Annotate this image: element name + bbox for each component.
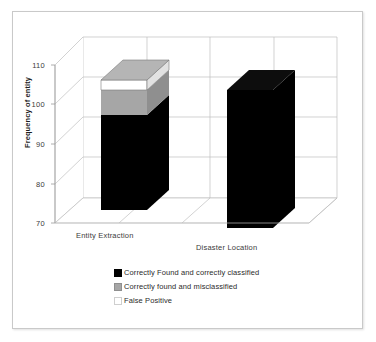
legend-label-misclassified: Correctly found and misclassified: [124, 282, 237, 291]
left-wall: [55, 37, 83, 223]
legend-item-correctly-classified[interactable]: Correctly Found and correctly classified: [114, 267, 344, 279]
legend-swatch-white: [114, 297, 122, 305]
y-tick-label-80: 80: [21, 180, 45, 189]
bar2-segment-correctly-classified-front: [227, 90, 273, 228]
y-tick-label-110: 110: [21, 61, 45, 70]
legend-label-correctly-classified: Correctly Found and correctly classified: [124, 268, 259, 277]
category-label-entity-extraction: Entity Extraction: [76, 231, 134, 240]
bar-segment-false-positive-front: [101, 80, 147, 90]
bar-segment-correctly-classified-front: [101, 115, 147, 210]
legend-swatch-gray: [114, 283, 122, 291]
legend-label-false-positive: False Positive: [124, 296, 172, 305]
legend-item-false-positive[interactable]: False Positive: [114, 295, 344, 307]
y-tick-label-70: 70: [21, 219, 45, 228]
bar2-segment-correctly-classified-side: [273, 70, 295, 228]
bar-segment-misclassified-front: [101, 90, 147, 115]
y-axis-title: Frequency of entity: [23, 73, 32, 153]
chart-frame: 110 100 90 80 70 Frequency of entity Ent…: [12, 11, 363, 329]
chart-plot-area: 110 100 90 80 70 Frequency of entity Ent…: [13, 12, 364, 330]
legend-item-misclassified[interactable]: Correctly found and misclassified: [114, 281, 344, 293]
legend-swatch-black: [114, 269, 122, 277]
bar-disaster-location: [227, 70, 295, 228]
y-axis-ticks: [51, 65, 55, 223]
bar-segment-correctly-classified-side: [147, 95, 169, 210]
bar-entity-extraction: [101, 60, 169, 210]
category-label-disaster-location: Disaster Location: [196, 243, 257, 252]
chart-legend: Correctly Found and correctly classified…: [114, 267, 344, 309]
